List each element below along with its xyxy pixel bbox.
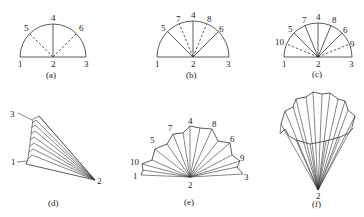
caption-f: (f): [312, 199, 321, 209]
point-label-8: 8: [207, 14, 212, 24]
point-label-2: 2: [97, 176, 102, 186]
panel-d: 3 1 2 (d): [10, 109, 102, 208]
point-label-4: 4: [51, 13, 56, 23]
point-label-1: 1: [282, 59, 287, 69]
point-label-3: 3: [10, 109, 15, 119]
pleat-stack: [26, 116, 95, 180]
point-label-3: 3: [84, 59, 89, 69]
fold-line-2-6: [193, 32, 219, 58]
fold-line-2-7: [305, 26, 318, 57]
point-label-7: 7: [168, 123, 173, 133]
folding-diagram: 1 2 3 4 5 6 (a) 1 2 3 4 5 6 7 8 (b) 1 2: [0, 0, 364, 217]
panel-c: 1 2 3 4 5 6 7 8 9 10 (c): [275, 12, 355, 79]
point-label-5: 5: [150, 135, 155, 145]
fold-line-2-5: [30, 34, 53, 57]
point-label-6: 6: [219, 24, 224, 34]
radial-folds: [141, 126, 243, 177]
panel-f: 2 (f): [280, 92, 355, 209]
point-label-6: 6: [79, 23, 84, 33]
point-label-3: 3: [244, 172, 249, 182]
point-label-5: 5: [161, 23, 166, 33]
point-label-8: 8: [212, 119, 217, 129]
point-label-1: 1: [133, 171, 138, 181]
fold-line-2-6: [318, 33, 342, 57]
point-label-6: 6: [343, 25, 348, 35]
point-label-6: 6: [230, 134, 235, 144]
fold-line-2-8: [193, 24, 207, 57]
caption-b: (b): [186, 70, 197, 80]
fold-line-2-5: [168, 32, 194, 58]
point-label-3: 3: [349, 59, 354, 69]
point-label-3: 3: [226, 59, 231, 69]
fold-line-2-8: [318, 26, 331, 57]
point-label-2: 2: [191, 59, 196, 69]
caption-a: (a): [46, 70, 56, 80]
point-label-1: 1: [11, 157, 16, 167]
point-label-7: 7: [176, 14, 181, 24]
caption-e: (e): [184, 197, 194, 207]
point-label-8: 8: [332, 15, 337, 25]
point-label-4: 4: [316, 12, 321, 22]
point-label-2: 2: [51, 59, 56, 69]
radial-folds: [281, 92, 355, 190]
point-label-4: 4: [191, 10, 196, 20]
point-label-4: 4: [188, 116, 193, 126]
point-label-2: 2: [316, 59, 321, 69]
leader-line-1: [17, 161, 27, 162]
panel-a: 1 2 3 4 5 6 (a): [18, 13, 89, 80]
point-label-1: 1: [155, 59, 160, 69]
point-label-1: 1: [18, 59, 23, 69]
point-label-10: 10: [275, 37, 285, 47]
panel-e: 1 2 3 4 5 6 7 8 9 10 (e): [130, 116, 249, 207]
leader-line-3: [18, 113, 32, 120]
panel-b: 1 2 3 4 5 6 7 8 (b): [155, 10, 231, 80]
fold-line-2-7: [179, 24, 193, 57]
point-label-5: 5: [288, 24, 293, 34]
caption-c: (c): [312, 69, 322, 79]
fold-line-2-5: [294, 33, 318, 57]
caption-d: (d): [48, 198, 59, 208]
point-label-5: 5: [24, 23, 29, 33]
fold-line-2-6: [53, 34, 76, 57]
point-label-7: 7: [302, 15, 307, 25]
point-label-2: 2: [188, 180, 193, 190]
point-label-9: 9: [240, 153, 245, 163]
point-label-10: 10: [130, 157, 140, 167]
point-label-9: 9: [350, 39, 355, 49]
